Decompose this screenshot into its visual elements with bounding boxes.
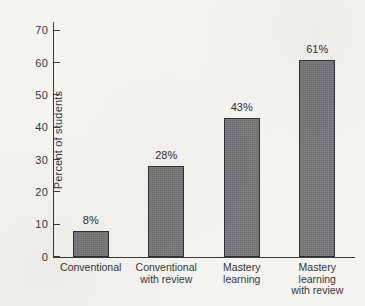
y-tick: 60 — [53, 62, 60, 63]
y-axis-title: Percent of students — [52, 91, 64, 190]
y-tick: 20 — [53, 191, 60, 192]
bar-group[interactable]: 8% — [73, 231, 109, 257]
bar[interactable] — [148, 166, 184, 257]
y-tick-mark — [54, 62, 60, 63]
y-tick-label: 0 — [42, 251, 48, 262]
y-tick-mark — [54, 127, 60, 128]
y-tick-mark — [54, 224, 60, 225]
bar[interactable] — [224, 118, 260, 257]
y-tick: 70 — [53, 30, 60, 31]
y-tick-label: 70 — [35, 25, 48, 36]
bar-value-label: 61% — [306, 44, 328, 55]
y-tick: 0 — [53, 256, 60, 257]
y-tick-mark — [54, 159, 60, 160]
y-tick: 50 — [53, 94, 60, 95]
y-tick-mark — [54, 30, 60, 31]
y-tick-label: 20 — [35, 186, 48, 197]
bar-group[interactable]: 28% — [148, 166, 184, 257]
y-tick-label: 10 — [35, 219, 48, 230]
y-tick-mark — [54, 191, 60, 192]
y-tick-label: 30 — [35, 154, 48, 165]
bar[interactable] — [299, 60, 335, 257]
y-tick-label: 60 — [35, 57, 48, 68]
y-tick-label: 50 — [35, 89, 48, 100]
bar[interactable] — [73, 231, 109, 257]
y-tick-mark — [54, 94, 60, 95]
bar-group[interactable]: 61% — [299, 60, 335, 257]
x-axis-line — [53, 257, 355, 258]
y-tick: 40 — [53, 127, 60, 128]
category-label: Conventional with review — [129, 262, 205, 285]
bar-group[interactable]: 43% — [224, 118, 260, 257]
plot-area: Percent of students 010203040506070 8%28… — [53, 22, 355, 258]
category-label: Conventional — [53, 262, 129, 274]
y-tick: 10 — [53, 224, 60, 225]
category-label: Mastery learning — [204, 262, 280, 285]
y-tick: 30 — [53, 159, 60, 160]
bar-value-label: 28% — [155, 150, 177, 161]
bar-value-label: 43% — [231, 102, 253, 113]
y-tick-mark — [54, 256, 60, 257]
category-label: Mastery learning with review — [280, 262, 356, 297]
bar-value-label: 8% — [83, 215, 99, 226]
bar-chart-figure: Percent of students 010203040506070 8%28… — [0, 0, 365, 306]
y-tick-label: 40 — [35, 122, 48, 133]
